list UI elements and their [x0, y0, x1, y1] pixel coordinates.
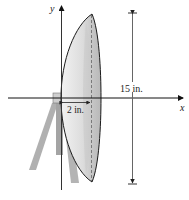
depth-dimension-label: 2 in.: [67, 105, 84, 115]
diameter-dimension-label: 15 in.: [120, 83, 143, 94]
tripod-leg-left: [29, 103, 58, 170]
y-axis-label: y: [49, 3, 55, 14]
satellite-dish-diagram: x y 2 in. 15 in.: [0, 0, 189, 200]
x-axis-label: x: [179, 102, 185, 113]
